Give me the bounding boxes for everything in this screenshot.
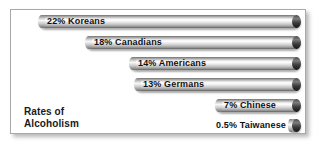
bar-chinese: 7% Chinese <box>215 99 300 112</box>
chart-screenshot: 22% Koreans 18% Canadians 14% Americans … <box>0 0 318 150</box>
bar-label-koreans: 22% Koreans <box>47 15 105 28</box>
bar-koreans: 22% Koreans <box>38 15 300 28</box>
bar-label-canadians: 18% Canadians <box>94 36 162 49</box>
chart-title-line-2: Alcoholism <box>24 118 79 130</box>
bar-label-americans: 14% Americans <box>138 57 206 70</box>
bar-label-germans: 13% Germans <box>143 78 204 91</box>
chart-title-line-1: Rates of <box>24 106 79 118</box>
bar-label-chinese: 7% Chinese <box>224 99 276 112</box>
bar-label-taiwanese: 0.5% Taiwanese <box>216 119 286 132</box>
bar-taiwanese: 0.5% Taiwanese <box>288 119 300 132</box>
chart-title: Rates of Alcoholism <box>24 106 79 130</box>
bar-canadians: 18% Canadians <box>85 36 300 49</box>
chart-panel: 22% Koreans 18% Canadians 14% Americans … <box>10 9 306 134</box>
bar-germans: 13% Germans <box>134 78 300 91</box>
bar-americans: 14% Americans <box>129 57 300 70</box>
